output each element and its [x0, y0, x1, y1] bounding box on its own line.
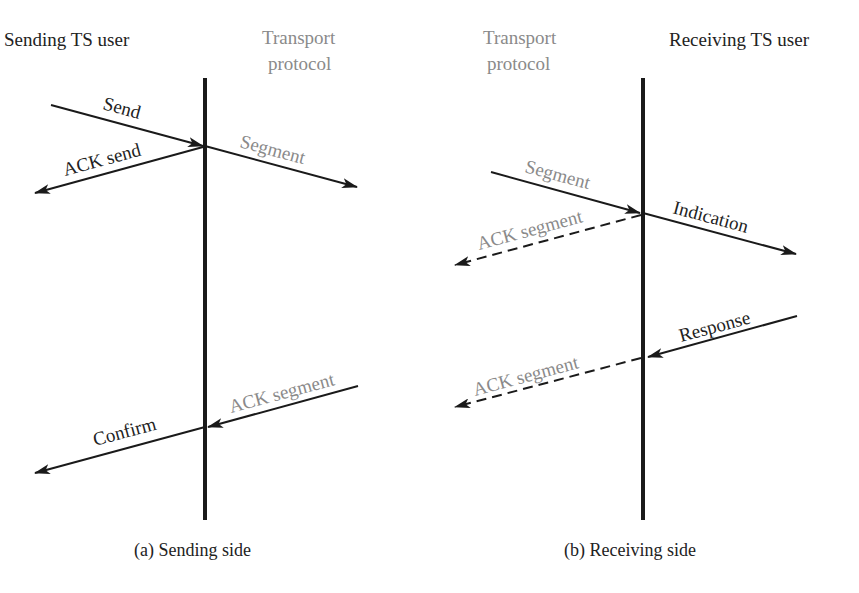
transport-protocol-header-line2: protocol — [268, 53, 331, 74]
panel-sending-side: Sending TS user Transport protocol Send … — [4, 27, 358, 561]
ack-segment-out-label-2: ACK segment — [471, 351, 582, 399]
ack-segment-out-label-1: ACK segment — [475, 205, 586, 253]
response-label: Response — [677, 307, 753, 346]
segment-in-label: Segment — [523, 156, 593, 194]
confirm-label: Confirm — [91, 413, 159, 450]
panel-receiving-side: Transport protocol Receiving TS user Seg… — [455, 27, 810, 561]
sending-ts-user-header: Sending TS user — [4, 29, 130, 50]
transport-protocol-header-line1: Transport — [262, 27, 336, 48]
segment-out-label: Segment — [238, 131, 308, 169]
transport-protocol-header-line2-b: protocol — [487, 53, 550, 74]
ack-segment-in-label: ACK segment — [227, 368, 338, 416]
caption-receiving-side: (b) Receiving side — [564, 540, 696, 561]
send-label: Send — [101, 93, 144, 123]
caption-sending-side: (a) Sending side — [134, 540, 251, 561]
receiving-ts-user-header: Receiving TS user — [669, 29, 810, 50]
transport-protocol-header-line1-b: Transport — [483, 27, 557, 48]
diagram-canvas: Sending TS user Transport protocol Send … — [0, 0, 859, 593]
